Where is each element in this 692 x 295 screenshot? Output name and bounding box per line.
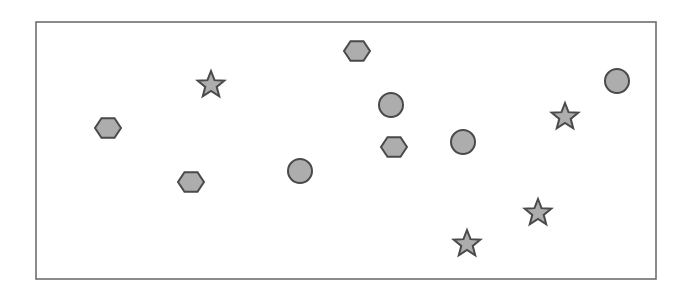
circle-icon — [288, 159, 312, 183]
circle-icon — [605, 69, 629, 93]
circle-icon — [379, 93, 403, 117]
diagram-frame — [36, 22, 656, 279]
hexagon-icon — [344, 41, 370, 61]
diagram-canvas — [0, 0, 692, 295]
hexagon-icon — [178, 172, 204, 192]
diagram-stage — [0, 0, 692, 295]
hexagon-icon — [95, 118, 121, 138]
circle-icon — [451, 130, 475, 154]
hexagon-icon — [381, 137, 407, 157]
